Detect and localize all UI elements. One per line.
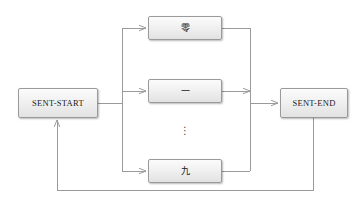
- node-digit-nine[interactable]: 九: [148, 159, 222, 183]
- node-sent-start-label: SENT-START: [32, 99, 84, 108]
- node-sent-start[interactable]: SENT-START: [18, 88, 98, 118]
- node-sent-end[interactable]: SENT-END: [280, 88, 348, 118]
- node-digit-one-label: 一: [181, 87, 190, 96]
- diagram-canvas: SENT-START 零 一 ⋮ 九 SENT-END: [0, 0, 364, 207]
- vertical-ellipsis: ⋮: [148, 118, 222, 144]
- node-digit-zero[interactable]: 零: [148, 16, 222, 40]
- node-digit-nine-label: 九: [181, 167, 190, 176]
- node-digit-one[interactable]: 一: [148, 79, 222, 103]
- node-digit-zero-label: 零: [181, 24, 190, 33]
- node-sent-end-label: SENT-END: [292, 99, 335, 108]
